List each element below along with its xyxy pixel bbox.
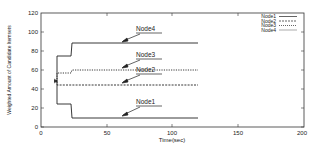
- y-axis-label: Weighted Amount of Candidate Itemsets: [6, 25, 12, 115]
- y-tick-label: 40: [31, 86, 38, 92]
- series-node3: [54, 70, 198, 81]
- x-axis-label: Time(sec): [159, 137, 185, 143]
- x-tick-label: 100: [167, 130, 178, 136]
- annotation-node1: Node1: [136, 98, 156, 105]
- y-tick-label: 120: [28, 10, 39, 16]
- x-tick-label: 50: [104, 130, 111, 136]
- x-tick-label: 150: [233, 130, 244, 136]
- annotation-node2: Node2: [136, 66, 156, 73]
- y-tick-label: 0: [35, 124, 39, 130]
- y-tick-label: 60: [31, 67, 38, 73]
- x-tick-label: 200: [297, 130, 308, 136]
- y-tick-label: 100: [28, 29, 39, 35]
- y-tick-label: 20: [31, 105, 38, 111]
- series-node4: [54, 43, 198, 81]
- x-tick-label: 0: [39, 130, 43, 136]
- x-axis: [107, 13, 238, 127]
- legend: Node1 Node2 Node3 Node4: [261, 13, 297, 33]
- y-tick-label: 80: [31, 48, 38, 54]
- y-axis: [41, 32, 304, 127]
- annotation-node3: Node3: [136, 51, 156, 58]
- annotation-node4: Node4: [136, 25, 156, 32]
- chart: 0 20 40 60 80 100 120 0 50 100 150 200 T…: [0, 0, 314, 145]
- legend-label-node4: Node4: [261, 27, 276, 33]
